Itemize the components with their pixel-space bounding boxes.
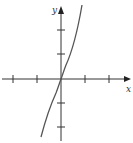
y-axis-label: y bbox=[51, 5, 58, 15]
function-graph: y x bbox=[0, 0, 133, 143]
y-axis-arrow-icon bbox=[58, 6, 64, 14]
x-axis-label: x bbox=[126, 84, 131, 94]
x-axis-arrow-icon bbox=[124, 76, 131, 82]
